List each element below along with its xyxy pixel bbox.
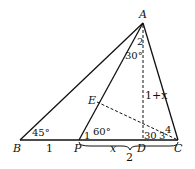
label-D: D xyxy=(137,143,146,154)
angle-1: 1 xyxy=(84,131,90,141)
angle-B: 45° xyxy=(32,128,50,138)
angle-2: 2 xyxy=(137,37,143,47)
angle-4: 4 xyxy=(165,125,171,135)
length-PC: 2 xyxy=(126,152,133,163)
label-B: B xyxy=(13,143,21,154)
angle-P: 60° xyxy=(93,127,111,137)
segment-AC xyxy=(143,23,178,140)
length-PD: x xyxy=(110,143,116,154)
length-AD: 1+x xyxy=(145,90,167,101)
length-BP: 1 xyxy=(46,143,53,154)
diagram-lines xyxy=(0,0,195,169)
brace-PC xyxy=(79,142,178,150)
label-E: E xyxy=(88,95,96,106)
segment-AP xyxy=(79,23,143,140)
angle-2-value: 30° xyxy=(125,51,143,61)
label-P: P xyxy=(74,143,81,154)
angle-D-30: 30 xyxy=(144,131,157,141)
label-C: C xyxy=(174,143,182,154)
label-A: A xyxy=(139,9,147,20)
geometry-diagram: A B P D C E 45° 60° 1 2 30° 4 3 30 1 x 2… xyxy=(0,0,195,169)
segment-AB xyxy=(20,23,143,140)
angle-3: 3 xyxy=(159,131,165,141)
